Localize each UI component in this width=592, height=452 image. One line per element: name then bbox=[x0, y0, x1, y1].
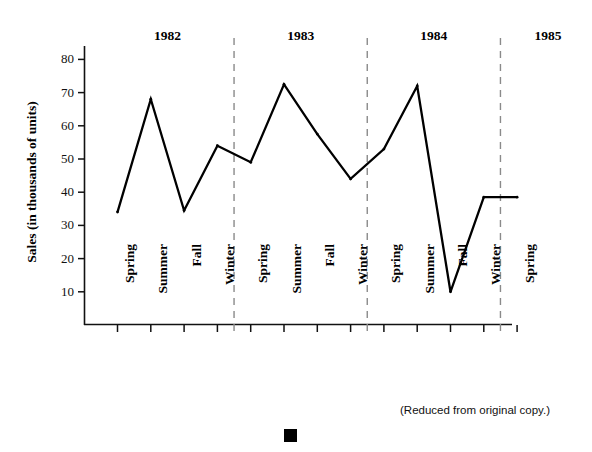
data-point bbox=[316, 133, 319, 136]
data-point bbox=[449, 290, 452, 293]
data-point bbox=[349, 178, 352, 181]
x-tick-label: Summer bbox=[290, 244, 304, 334]
data-point bbox=[249, 161, 252, 164]
x-tick-label: Winter bbox=[489, 244, 503, 334]
year-group-label: 1985 bbox=[518, 28, 578, 43]
y-tick-label: 40 bbox=[48, 185, 74, 198]
x-tick-label: Winter bbox=[356, 244, 370, 334]
year-group-label: 1982 bbox=[137, 28, 197, 43]
y-tick-label: 10 bbox=[48, 285, 74, 298]
sales-line-chart: 1020304050607080 Sales (in thousands of … bbox=[0, 0, 592, 452]
x-tick-label: Fall bbox=[456, 244, 470, 334]
x-tick-label: Fall bbox=[190, 244, 204, 334]
data-point bbox=[482, 196, 485, 199]
x-tick-label: Fall bbox=[323, 244, 337, 334]
y-tick-label: 50 bbox=[48, 152, 74, 165]
x-tick-label: Spring bbox=[123, 244, 137, 334]
data-point bbox=[383, 148, 386, 151]
y-tick-label: 70 bbox=[48, 86, 74, 99]
y-axis-title: Sales (in thousands of units) bbox=[24, 82, 39, 282]
data-point bbox=[216, 144, 219, 147]
chart-canvas bbox=[0, 0, 592, 452]
x-tick-label: Spring bbox=[256, 244, 270, 334]
y-tick-label: 80 bbox=[48, 52, 74, 65]
year-group-label: 1983 bbox=[271, 28, 331, 43]
x-tick-label: Winter bbox=[223, 244, 237, 334]
figure-footnote: (Reduced from original copy.) bbox=[400, 404, 550, 417]
data-point bbox=[183, 209, 186, 212]
data-point bbox=[149, 98, 152, 101]
x-tick-label: Summer bbox=[156, 244, 170, 334]
x-tick-label: Spring bbox=[523, 244, 537, 334]
data-point bbox=[283, 83, 286, 86]
data-point bbox=[416, 85, 419, 88]
x-tick-label: Summer bbox=[423, 244, 437, 334]
x-tick-label: Spring bbox=[389, 244, 403, 334]
year-group-label: 1984 bbox=[404, 28, 464, 43]
y-tick-label: 20 bbox=[48, 252, 74, 265]
y-tick-label: 30 bbox=[48, 218, 74, 231]
data-point bbox=[116, 211, 119, 214]
black-square-marker bbox=[284, 429, 297, 442]
y-tick-label: 60 bbox=[48, 119, 74, 132]
data-point bbox=[516, 196, 519, 199]
